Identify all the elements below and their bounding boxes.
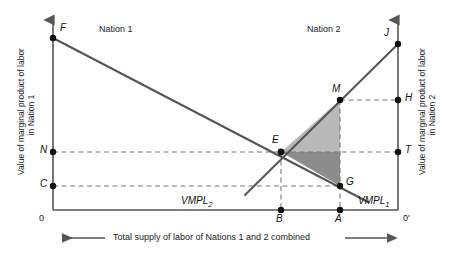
curve-label-vmpl1: VMPL1 (358, 195, 389, 209)
right-axis-title: Value of marginal product of labor in Na… (417, 55, 437, 175)
point-T (395, 149, 401, 155)
right-axis-title-line1: Value of marginal product of labor (417, 48, 427, 175)
label-point-G: G (346, 176, 354, 187)
point-E (278, 149, 285, 156)
left-axis-title: Value of marginal product of labor in Na… (16, 55, 36, 175)
label-point-M: M (332, 83, 340, 94)
point-H (395, 97, 401, 103)
label-point-T: T (405, 144, 411, 155)
left-axis-title-line1: Value of marginal product of labor (16, 48, 26, 175)
label-point-J: J (384, 27, 389, 38)
label-point-B: B (276, 213, 283, 224)
diagram-canvas (0, 0, 453, 257)
curve-label-vmpl2-text: VMPL (181, 195, 208, 206)
origin-label-left: 0 (39, 213, 44, 223)
curve-label-vmpl1-text: VMPL (358, 195, 385, 206)
dashed-guides (53, 100, 398, 210)
label-point-A: A (335, 213, 342, 224)
curve-label-vmpl2-sub: 2 (208, 200, 212, 209)
point-M (337, 97, 343, 103)
region-label-nation-1: Nation 1 (99, 24, 133, 34)
curve-label-vmpl2: VMPL2 (181, 195, 212, 209)
label-point-N: N (40, 144, 47, 155)
point-N (50, 149, 56, 155)
labor-mobility-diagram: Value of marginal product of labor in Na… (0, 0, 453, 257)
label-point-C: C (40, 178, 47, 189)
lower-triangle-ETG (281, 152, 340, 186)
bottom-axis-caption: Total supply of labor of Nations 1 and 2… (113, 232, 310, 242)
left-axis-title-line2: in Nation 1 (26, 95, 36, 136)
origin-label-right: 0' (403, 213, 410, 223)
curve-label-vmpl1-sub: 1 (385, 200, 389, 209)
point-F (50, 35, 56, 41)
right-axis-title-line2: in Nation 2 (427, 95, 437, 136)
upper-triangle-EMT (281, 100, 340, 152)
region-label-nation-2: Nation 2 (307, 24, 341, 34)
label-point-E: E (272, 134, 279, 145)
point-G (337, 183, 343, 189)
point-J (395, 41, 401, 47)
point-C (50, 183, 56, 189)
label-point-H: H (405, 92, 412, 103)
label-point-F: F (60, 22, 66, 33)
